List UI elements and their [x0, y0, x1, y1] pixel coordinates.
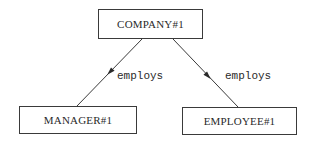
edge-label-employs-manager: employs — [117, 71, 163, 82]
diagram-canvas: COMPANY#1 MANAGER#1 EMPLOYEE#1 employs e… — [0, 0, 312, 145]
company-entity-box: COMPANY#1 — [98, 9, 203, 39]
employee-entity-label: EMPLOYEE#1 — [204, 115, 276, 127]
manager-entity-box: MANAGER#1 — [19, 106, 137, 134]
edge-label-employs-employee: employs — [225, 71, 271, 82]
employee-entity-box: EMPLOYEE#1 — [182, 107, 297, 135]
manager-entity-label: MANAGER#1 — [44, 114, 112, 126]
company-entity-label: COMPANY#1 — [117, 18, 184, 30]
